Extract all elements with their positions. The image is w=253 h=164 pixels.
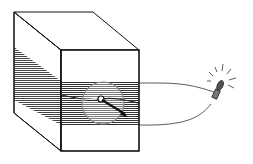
wires	[139, 83, 214, 125]
light-bulb	[207, 64, 236, 99]
wire-top	[139, 83, 214, 92]
diagram-canvas	[0, 0, 253, 164]
layered-block	[14, 12, 139, 151]
wire-bottom	[139, 104, 211, 125]
